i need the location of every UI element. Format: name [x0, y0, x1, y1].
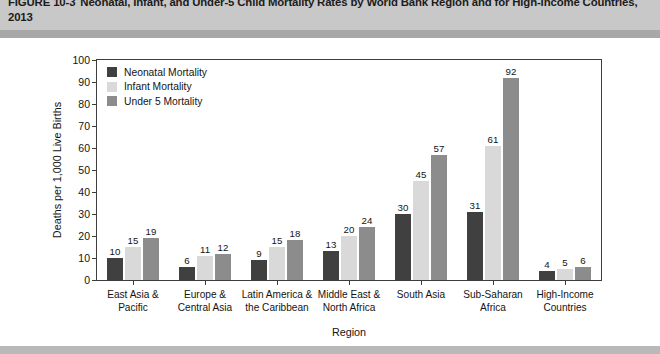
bar: 61 [485, 146, 502, 280]
bar: 57 [431, 155, 448, 280]
x-axis-tick-mark [133, 280, 134, 285]
bar: 15 [269, 247, 286, 280]
y-axis-tick-mark [92, 280, 97, 281]
bar: 18 [287, 240, 304, 280]
bar-value-label: 11 [200, 244, 210, 255]
bar: 4 [539, 271, 556, 280]
y-axis-tick-mark [92, 258, 97, 259]
bar-value-label: 45 [416, 169, 427, 180]
bar-group: 304557 [395, 60, 448, 280]
y-axis-tick-mark [92, 214, 97, 215]
plot-area: Deaths per 1,000 Live Births 01020304050… [96, 59, 602, 281]
bar: 15 [125, 247, 142, 280]
bar-value-label: 4 [544, 259, 549, 270]
bar-value-label: 30 [398, 202, 409, 213]
bar-value-label: 20 [344, 224, 355, 235]
x-axis-tick-mark [205, 280, 206, 285]
bar: 24 [359, 227, 376, 280]
y-axis-tick-mark [92, 104, 97, 105]
x-axis-tick-mark [493, 280, 494, 285]
bar-value-label: 18 [290, 228, 301, 239]
y-axis-tick-label: 80 [46, 98, 97, 110]
figure-footer-band [0, 346, 660, 354]
bar: 10 [107, 258, 124, 280]
bar-value-label: 57 [434, 143, 445, 154]
y-axis-tick-mark [92, 82, 97, 83]
bar-value-label: 12 [218, 242, 229, 253]
y-axis-tick-label: 60 [46, 142, 97, 154]
y-axis-tick-mark [92, 192, 97, 193]
figure-caption: Neonatal, Infant, and Under-5 Child Mort… [8, 0, 637, 23]
x-axis-tick-mark [349, 280, 350, 285]
bar-group: 316192 [467, 60, 520, 280]
y-axis-tick-label: 20 [46, 230, 97, 242]
x-axis-category-line: High-Income [515, 289, 615, 302]
bar-value-label: 6 [184, 255, 189, 266]
bar-value-label: 13 [326, 239, 337, 250]
bar: 12 [215, 254, 232, 280]
y-axis-tick-label: 50 [46, 164, 97, 176]
bar-group: 132024 [323, 60, 376, 280]
figure-title: FIGURE 10-3Neonatal, Infant, and Under-5… [8, 0, 656, 25]
y-axis-tick-mark [92, 148, 97, 149]
bar-value-label: 19 [146, 226, 157, 237]
bar: 13 [323, 251, 340, 280]
y-axis-tick-label: 90 [46, 76, 97, 88]
figure-number: FIGURE 10-3 [8, 0, 75, 8]
bar: 11 [197, 256, 214, 280]
bar-group: 61112 [179, 60, 232, 280]
x-axis-tick-mark [277, 280, 278, 285]
y-axis-tick-label: 40 [46, 186, 97, 198]
y-axis-tick-label: 30 [46, 208, 97, 220]
x-axis-category-label: High-IncomeCountries [515, 289, 615, 314]
bar: 92 [503, 78, 520, 280]
bar-value-label: 6 [580, 255, 585, 266]
y-axis-tick-label: 70 [46, 120, 97, 132]
header-divider [0, 30, 660, 38]
y-axis-tick-mark [92, 236, 97, 237]
bar: 30 [395, 214, 412, 280]
bar-group: 456 [539, 60, 592, 280]
bar-value-label: 5 [562, 257, 567, 268]
bar-value-label: 92 [506, 66, 517, 77]
bar: 6 [575, 267, 592, 280]
bar-group: 91518 [251, 60, 304, 280]
x-axis-title: Region [96, 326, 602, 338]
bar: 6 [179, 267, 196, 280]
bar: 20 [341, 236, 358, 280]
bar-value-label: 61 [488, 134, 499, 145]
x-axis-tick-mark [565, 280, 566, 285]
bar: 5 [557, 269, 574, 280]
figure-header-band: FIGURE 10-3Neonatal, Infant, and Under-5… [0, 0, 660, 30]
y-axis-tick-label: 0 [46, 274, 97, 286]
bar-group: 101519 [107, 60, 160, 280]
x-axis-category-line: Countries [515, 302, 615, 315]
y-axis-tick-mark [92, 170, 97, 171]
y-axis-tick-mark [92, 126, 97, 127]
bar-value-label: 15 [128, 235, 139, 246]
bar-value-label: 10 [110, 246, 121, 257]
y-axis-tick-mark [92, 60, 97, 61]
y-axis-tick-label: 100 [46, 54, 97, 66]
bar: 19 [143, 238, 160, 280]
bar: 9 [251, 260, 268, 280]
chart-container: Deaths per 1,000 Live Births 01020304050… [0, 38, 660, 346]
bar-value-label: 24 [362, 215, 373, 226]
bar-value-label: 15 [272, 235, 283, 246]
x-axis-tick-mark [421, 280, 422, 285]
bar-value-label: 31 [470, 200, 481, 211]
bar-value-label: 9 [256, 248, 261, 259]
bar: 45 [413, 181, 430, 280]
bar: 31 [467, 212, 484, 280]
y-axis-tick-label: 10 [46, 252, 97, 264]
x-axis-category-line: North Africa [299, 302, 399, 315]
